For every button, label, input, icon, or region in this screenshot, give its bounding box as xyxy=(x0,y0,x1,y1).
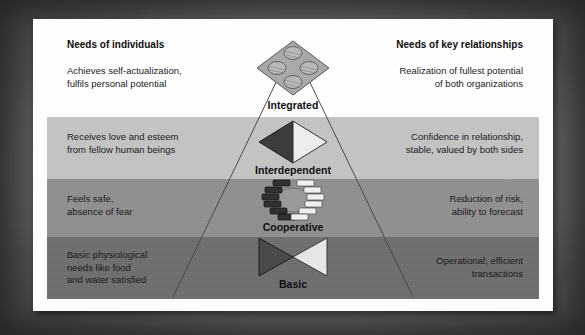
interlocking-blocks-ring-icon xyxy=(253,178,333,222)
left-text-integrated: Achieves self-actualization, fulfils per… xyxy=(67,65,227,90)
left-text-interdependent: Receives love and esteem from fellow hum… xyxy=(67,131,227,156)
diamond-plate-with-four-spheres-icon xyxy=(255,39,331,97)
diagram-card: Integrated Interdependent Cooperative Ba… xyxy=(33,19,553,311)
column-header-relationships: Needs of key relationships xyxy=(355,39,523,52)
right-text-interdependent: Confidence in relationship, stable, valu… xyxy=(355,131,523,156)
diagram-plate: Integrated Interdependent Cooperative Ba… xyxy=(47,31,539,299)
two-triangles-diamond-icon xyxy=(256,119,330,165)
level-label-cooperative: Cooperative xyxy=(47,221,539,233)
level-label-integrated: Integrated xyxy=(47,99,539,111)
left-text-basic: Basic physiological needs like food and … xyxy=(67,249,227,287)
diagram-screenshot: Integrated Interdependent Cooperative Ba… xyxy=(0,0,585,335)
right-text-integrated: Realization of fullest potential of both… xyxy=(355,65,523,90)
column-header-individuals: Needs of individuals xyxy=(67,39,227,52)
left-text-cooperative: Feels safe, absence of fear xyxy=(67,193,227,218)
right-text-basic: Operational, efficient transactions xyxy=(355,255,523,280)
right-text-cooperative: Reduction of risk, ability to forecast xyxy=(355,193,523,218)
bowtie-two-triangles-icon xyxy=(255,236,331,278)
level-label-interdependent: Interdependent xyxy=(47,164,539,176)
